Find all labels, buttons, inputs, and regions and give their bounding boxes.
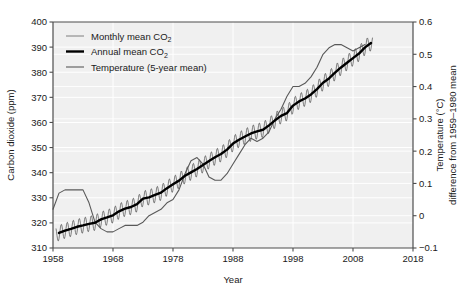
right-tick-label: 0.5 (419, 49, 432, 60)
right-tick-label: 0 (419, 210, 424, 221)
left-axis-title: Carbon dioxide (ppm) (5, 89, 16, 180)
left-tick-label: 350 (31, 142, 47, 153)
bottom-tick-label: 1978 (162, 253, 183, 264)
legend-item-label: Temperature (5-year mean) (91, 62, 207, 73)
legend-item-subscript: 2 (164, 52, 168, 59)
bottom-tick-label: 1988 (222, 253, 243, 264)
bottom-tick-label: 2008 (342, 253, 363, 264)
right-tick-label: 0.3 (419, 113, 432, 124)
bottom-axis-title: Year (223, 274, 242, 285)
co2-temperature-chart-figure: 310320330340350360370380390400 −0.100.10… (0, 0, 471, 291)
bottom-tick-label: 2018 (402, 253, 423, 264)
right-axis-title-line1: Temperature (°C) (434, 99, 445, 172)
right-tick-label: 0.1 (419, 178, 432, 189)
legend-item-label: Annual mean CO2 (91, 46, 168, 59)
right-axis-title-line2: difference from 1959–1980 mean (447, 65, 458, 205)
left-tick-label: 360 (31, 117, 47, 128)
legend-item-subscript: 2 (168, 36, 172, 43)
right-tick-label: 0.4 (419, 81, 432, 92)
bottom-axis-tick-labels: 1958196819781988199820082018 (42, 253, 423, 264)
left-tick-label: 330 (31, 192, 47, 203)
left-tick-label: 310 (31, 242, 47, 253)
right-tick-label: 0.2 (419, 146, 432, 157)
bottom-tick-label: 1998 (282, 253, 303, 264)
left-tick-label: 390 (31, 42, 47, 53)
left-tick-label: 380 (31, 67, 47, 78)
left-tick-label: 340 (31, 167, 47, 178)
bottom-tick-label: 1968 (102, 253, 123, 264)
right-tick-label: −0.1 (419, 242, 438, 253)
left-axis-tick-labels: 310320330340350360370380390400 (31, 16, 47, 253)
bottom-tick-label: 1958 (42, 253, 63, 264)
chart-canvas: 310320330340350360370380390400 −0.100.10… (0, 0, 471, 291)
left-tick-label: 320 (31, 217, 47, 228)
legend-item-label: Monthly mean CO2 (91, 31, 172, 44)
right-tick-label: 0.6 (419, 16, 432, 27)
left-tick-label: 400 (31, 16, 47, 27)
left-tick-label: 370 (31, 92, 47, 103)
